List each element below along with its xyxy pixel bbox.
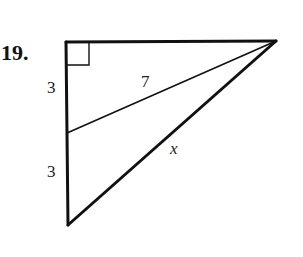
cevian-line — [67, 41, 276, 133]
label-cevian-length: 7 — [141, 73, 150, 90]
hypotenuse — [68, 41, 276, 225]
geometry-figure: 19. 3 3 7 x — [0, 0, 303, 257]
label-upper-left-segment: 3 — [47, 79, 56, 96]
right-angle-marker — [67, 43, 89, 65]
problem-number: 19. — [1, 42, 29, 64]
label-lower-left-segment: 3 — [47, 163, 56, 180]
label-hypotenuse-x: x — [170, 140, 178, 157]
top-leg — [66, 41, 276, 42]
triangle-diagram — [0, 0, 303, 257]
